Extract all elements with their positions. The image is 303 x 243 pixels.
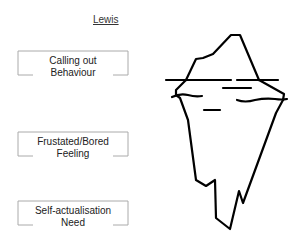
iceberg-icon [0, 0, 303, 243]
